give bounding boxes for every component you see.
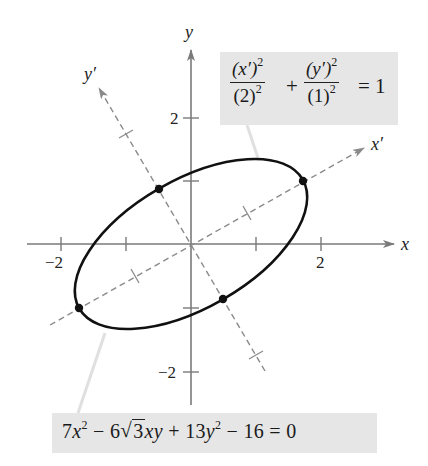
exponent: 2 xyxy=(257,55,263,69)
denominator: (1) xyxy=(308,85,330,106)
variable-x: x xyxy=(72,420,81,442)
equals-one: = 1 xyxy=(358,74,386,99)
term: + 13 xyxy=(163,420,206,442)
x-tick-label-pos2: 2 xyxy=(316,253,325,272)
general-form-equation: 7x2 − 6√3xy + 13y2 − 16 = 0 xyxy=(52,413,377,453)
covertex-dot xyxy=(155,185,163,193)
coefficient: 7 xyxy=(62,420,72,442)
vertex-dot xyxy=(299,177,307,185)
square-root: √3 xyxy=(120,420,144,443)
numerator: (x′) xyxy=(232,58,257,79)
rotated-axes xyxy=(50,88,364,371)
term: − 16 = 0 xyxy=(221,420,296,442)
x-prime-axis xyxy=(50,148,364,325)
general-form-text: 7x2 − 6√3xy + 13y2 − 16 = 0 xyxy=(62,420,297,443)
top-leader-line xyxy=(247,125,258,158)
plus-sign: + xyxy=(286,74,298,99)
radical-sign-icon: √ xyxy=(120,418,132,443)
y-tick-label-neg2: −2 xyxy=(158,363,176,382)
covertex-dot xyxy=(219,295,227,303)
exponent: 2 xyxy=(331,55,337,69)
x-prime-axis-label: x′ xyxy=(370,134,384,154)
fraction-x-prime: (x′)2 (2)2 xyxy=(230,58,265,107)
standard-form-equation: (x′)2 (2)2 + (y′)2 (1)2 = 1 xyxy=(220,52,398,125)
term: − 6 xyxy=(88,420,120,442)
numerator: (y′) xyxy=(306,58,331,79)
x-tick-label-neg2: −2 xyxy=(45,253,63,272)
fraction-y-prime: (y′)2 (1)2 xyxy=(304,58,339,107)
radicand: 3 xyxy=(132,419,144,442)
vertex-dot xyxy=(75,304,83,312)
y-prime-axis-label: y′ xyxy=(82,64,97,84)
x-axis-label: x xyxy=(400,234,409,254)
exponent: 2 xyxy=(256,82,262,96)
bottom-leader-line xyxy=(78,333,105,413)
y-axis-label: y xyxy=(183,22,193,42)
y-tick-label-pos2: 2 xyxy=(170,109,179,128)
variable-y: y xyxy=(206,420,215,442)
variable-xy: xy xyxy=(145,420,163,442)
exponent: 2 xyxy=(330,82,336,96)
denominator: (2) xyxy=(234,85,256,106)
